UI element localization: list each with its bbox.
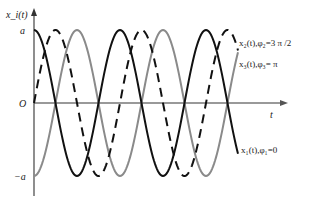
x-axis-arrow <box>280 100 288 106</box>
legend-x1: x₁(t),φ₁=0 <box>241 145 278 155</box>
tick-a: a <box>20 25 25 36</box>
legend-x2: x₂(t),φ₂=3 π /2 <box>239 38 291 48</box>
tick-neg-a: −a <box>14 171 26 182</box>
y-axis-label: x_i(t) <box>5 9 28 21</box>
chart: x_i(t) t a O −a x₂(t),φ₂=3 π /2 x₃(t),φ₃… <box>0 0 309 212</box>
tick-origin: O <box>19 98 26 109</box>
x-axis-label: t <box>270 109 273 120</box>
y-axis-arrow <box>31 8 37 16</box>
legend-x3: x₃(t),φ₃= π <box>239 59 278 69</box>
